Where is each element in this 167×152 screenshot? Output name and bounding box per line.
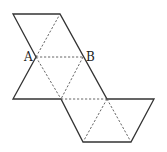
fold-line <box>83 99 107 142</box>
fold-line <box>107 99 131 142</box>
net-svg: A B <box>0 0 167 152</box>
octahedron-net-diagram: A B <box>0 0 167 152</box>
fold-line <box>36 14 60 57</box>
net-outline <box>13 14 154 142</box>
fold-line <box>36 57 61 99</box>
fold-lines <box>36 14 131 142</box>
vertex-label-A: A <box>23 50 33 64</box>
vertex-label-B: B <box>86 50 95 64</box>
fold-line <box>61 57 83 99</box>
